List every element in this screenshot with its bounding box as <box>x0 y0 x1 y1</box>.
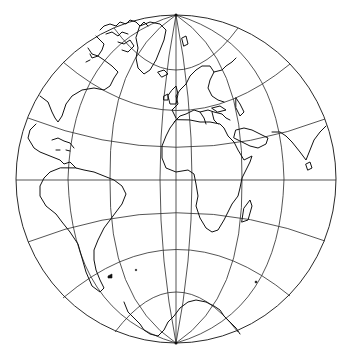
south-pole-marker <box>175 342 178 345</box>
island-south-georgia <box>135 269 137 271</box>
globe-map <box>0 0 348 357</box>
island-kerguelen <box>255 281 257 283</box>
north-pole-marker <box>175 14 178 17</box>
